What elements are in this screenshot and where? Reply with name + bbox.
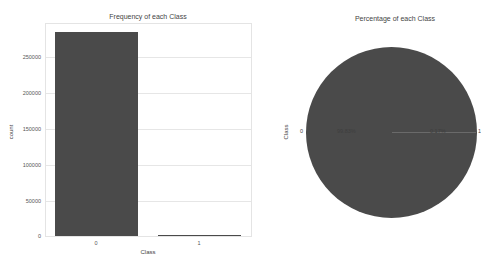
pie-y-axis-label: Class (283, 124, 289, 139)
y-tick-250000: 250000 (23, 54, 41, 60)
y-tick-0: 0 (38, 233, 41, 239)
pie-pct-1: 0.17% (430, 128, 446, 134)
y-tick-100000: 100000 (23, 162, 41, 168)
x-tick-1: 1 (197, 240, 200, 246)
bar-class-1 (158, 235, 241, 236)
y-tick-200000: 200000 (23, 90, 41, 96)
bar-class-0 (55, 32, 138, 236)
x-tick-0: 0 (94, 240, 97, 246)
pie-chart-title: Percentage of each Class (355, 15, 435, 22)
bar-y-axis-label: count (8, 125, 14, 140)
pie-pct-0: 99.83% (337, 128, 356, 134)
y-tick-50000: 50000 (26, 198, 41, 204)
pie-label-0: 0 (300, 128, 303, 134)
bar-x-axis-label: Class (140, 249, 155, 255)
y-tick-150000: 150000 (23, 126, 41, 132)
bar-chart-title: Frequency of each Class (109, 13, 186, 20)
